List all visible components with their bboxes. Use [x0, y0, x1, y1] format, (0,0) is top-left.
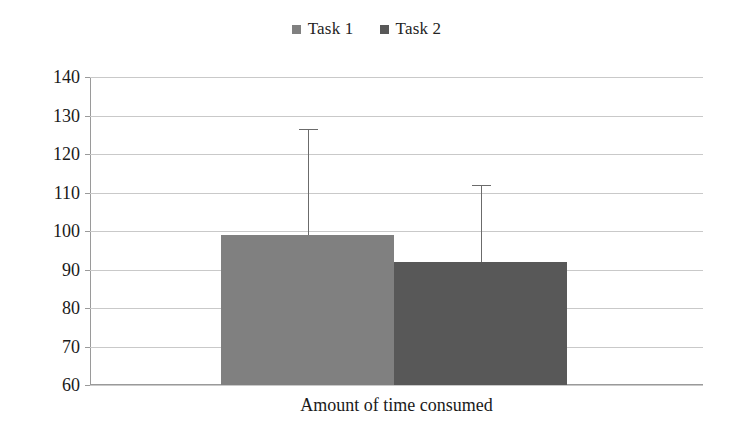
y-axis-tick-mark [85, 385, 90, 386]
y-axis-tick-mark [85, 193, 90, 194]
error-bar-cap [472, 185, 491, 186]
legend-square-marker-icon [292, 25, 301, 34]
legend-entry-task-2: Task 2 [380, 20, 442, 37]
y-axis-tick-label: 60 [28, 376, 80, 394]
y-axis-tick-mark [85, 77, 90, 78]
legend-label-task-2: Task 2 [396, 20, 442, 37]
gridline [90, 231, 703, 232]
gridline [90, 116, 703, 117]
y-axis-tick-mark [85, 231, 90, 232]
y-axis-tick-mark [85, 116, 90, 117]
y-axis-tick-label: 130 [28, 107, 80, 125]
error-bar-stem [481, 185, 482, 262]
y-axis-tick-mark [85, 270, 90, 271]
y-axis-tick-label: 110 [28, 184, 80, 202]
error-bar-cap [299, 129, 318, 130]
x-axis-title: Amount of time consumed [90, 395, 703, 415]
gridline [90, 154, 703, 155]
gridline [90, 385, 703, 386]
y-axis-tick-label: 100 [28, 222, 80, 240]
error-bar-stem [308, 129, 309, 235]
y-axis-tick-mark [85, 347, 90, 348]
legend-label-task-1: Task 1 [308, 20, 354, 37]
y-axis-tick-label: 120 [28, 145, 80, 163]
legend-entry-task-1: Task 1 [292, 20, 354, 37]
bar-chart: Task 1 Task 2 14013012011010090807060 Am… [0, 0, 733, 435]
y-axis-tick-label: 70 [28, 338, 80, 356]
y-axis-tick-label: 90 [28, 261, 80, 279]
plot-area: 14013012011010090807060 [90, 77, 703, 385]
y-axis-tick-mark [85, 154, 90, 155]
legend-square-marker-icon [380, 25, 389, 34]
y-axis-tick-label: 140 [28, 68, 80, 86]
y-axis-tick-mark [85, 308, 90, 309]
bar-task-1 [221, 235, 394, 385]
chart-legend: Task 1 Task 2 [0, 20, 733, 37]
bar-task-2 [394, 262, 567, 385]
gridline [90, 77, 703, 78]
y-axis-tick-label: 80 [28, 299, 80, 317]
gridline [90, 193, 703, 194]
